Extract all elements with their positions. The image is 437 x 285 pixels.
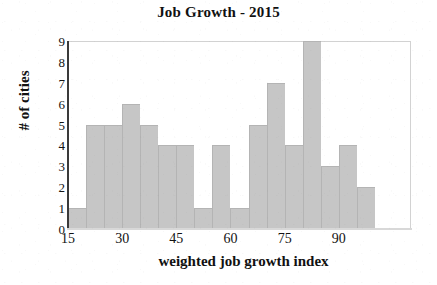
x-tick-label: 60 (223, 232, 237, 246)
y-axis-line (67, 41, 69, 230)
histogram-chart: Job Growth - 2015 # of cities 0123456789… (0, 0, 437, 285)
x-tick-label: 15 (61, 232, 75, 246)
x-axis-line (67, 228, 412, 230)
histogram-bar (321, 166, 339, 229)
histogram-bar (104, 125, 122, 229)
histogram-bar (212, 145, 230, 229)
histogram-bar (303, 41, 321, 229)
histogram-bar (176, 145, 194, 229)
histogram-bar (86, 125, 104, 229)
histogram-bar (230, 208, 248, 229)
histogram-bar (122, 104, 140, 229)
y-tick-label: 5 (47, 118, 65, 131)
x-tick-label: 90 (332, 232, 346, 246)
x-axis-tick-labels: 153045607590 (68, 232, 411, 252)
y-tick-label: 1 (47, 202, 65, 215)
histogram-bar (158, 145, 176, 229)
y-tick-label: 7 (47, 76, 65, 89)
x-tick-label: 30 (115, 232, 129, 246)
histogram-bar (249, 125, 267, 229)
histogram-bar (194, 208, 212, 229)
x-tick-label: 75 (278, 232, 292, 246)
histogram-bar (267, 83, 285, 229)
histogram-bar (140, 125, 158, 229)
y-tick-label: 2 (47, 181, 65, 194)
y-tick-label: 3 (47, 160, 65, 173)
y-tick-label: 4 (47, 139, 65, 152)
y-axis-label: # of cities (16, 53, 33, 149)
bars-container (68, 41, 411, 229)
histogram-bar (339, 145, 357, 229)
y-tick-label: 8 (47, 55, 65, 68)
histogram-bar (68, 208, 86, 229)
x-axis-label: weighted job growth index (60, 253, 427, 270)
histogram-bar (285, 145, 303, 229)
y-tick-label: 6 (47, 97, 65, 110)
y-axis-tick-labels: 0123456789 (43, 41, 65, 229)
chart-title: Job Growth - 2015 (0, 4, 437, 21)
histogram-bar (357, 187, 375, 229)
x-tick-label: 45 (169, 232, 183, 246)
y-tick-label: 9 (47, 35, 65, 48)
